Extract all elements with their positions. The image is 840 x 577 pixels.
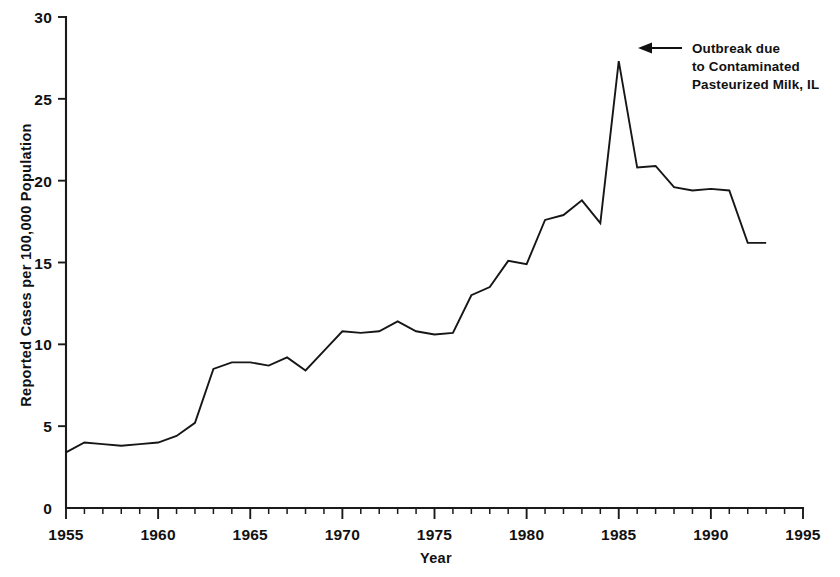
y-axis-tick-labels: 051015202530 — [34, 9, 52, 517]
y-tick-label: 5 — [43, 418, 52, 435]
y-tick-label: 20 — [34, 173, 52, 190]
x-tick-label: 1955 — [48, 526, 83, 543]
annotation-line-1: Outbreak due — [692, 41, 780, 56]
y-tick-label: 10 — [34, 336, 52, 353]
y-tick-label: 15 — [34, 255, 52, 272]
y-tick-label: 30 — [34, 9, 52, 26]
x-tick-label: 1960 — [140, 526, 175, 543]
x-tick-label: 1965 — [233, 526, 268, 543]
annotation-arrow-head — [638, 43, 652, 54]
x-tick-label: 1985 — [601, 526, 636, 543]
x-tick-label: 1980 — [509, 526, 544, 543]
annotation-line-2: to Contaminated — [692, 59, 800, 74]
data-series-line — [66, 61, 766, 452]
y-axis-title: Reported Cases per 100,000 Population — [18, 123, 34, 406]
x-tick-label: 1990 — [693, 526, 728, 543]
x-tick-label: 1975 — [417, 526, 452, 543]
y-axis-ticks — [58, 17, 66, 426]
x-axis-ticks — [66, 508, 803, 519]
x-axis-tick-labels: 195519601965197019751980198519901995 — [48, 526, 820, 543]
x-tick-label: 1970 — [325, 526, 360, 543]
chart-container: 195519601965197019751980198519901995 051… — [0, 0, 840, 577]
outbreak-annotation: Outbreak due to Contaminated Pasteurized… — [638, 41, 819, 92]
annotation-line-3: Pasteurized Milk, IL — [692, 77, 819, 92]
x-tick-label: 1995 — [785, 526, 820, 543]
line-chart: 195519601965197019751980198519901995 051… — [0, 0, 840, 577]
x-axis-title: Year — [420, 550, 452, 566]
y-tick-label: 0 — [43, 500, 52, 517]
y-tick-label: 25 — [34, 91, 52, 108]
